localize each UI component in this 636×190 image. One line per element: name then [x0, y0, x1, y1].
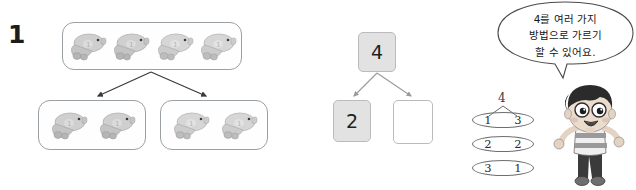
decomposition-right-value: 1 [514, 161, 521, 175]
svg-text:1: 1 [237, 120, 241, 128]
seal-group-part-right: 1 1 [160, 100, 268, 150]
seal-row: 1 1 [161, 101, 267, 149]
decomposition-whole: 4 [498, 91, 506, 105]
seal-icon: 1 [197, 29, 237, 63]
decomposition-left-value: 3 [484, 161, 491, 175]
seal-icon: 1 [110, 29, 150, 63]
svg-text:1: 1 [129, 41, 133, 49]
decomposition-chart: 4 1 3 2 2 3 1 [472, 93, 538, 185]
speech-bubble-text: 4를 여러 가지 방법으로 가르기 할 수 있어요. [495, 0, 636, 72]
seal-icon: 1 [170, 108, 210, 142]
svg-text:1: 1 [86, 41, 90, 49]
decomposition-left-value: 1 [484, 113, 491, 127]
number-bond-whole: 4 [358, 32, 396, 72]
worksheet-page: 1 [0, 0, 636, 190]
speech-bubble: 4를 여러 가지 방법으로 가르기 할 수 있어요. [495, 0, 636, 80]
speech-line: 할 수 있어요. [535, 46, 595, 59]
decomposition-right-value: 3 [514, 113, 521, 127]
seal-row: 1 1 [39, 101, 145, 149]
seal-row: 1 1 1 [63, 23, 241, 69]
seal-icon: 1 [218, 108, 258, 142]
svg-text:1: 1 [216, 41, 220, 49]
decomposition-row: 1 3 [472, 112, 534, 128]
seal-icon: 1 [48, 108, 88, 142]
seal-group-whole: 1 1 1 [62, 22, 242, 70]
seal-icon: 1 [154, 29, 194, 63]
svg-text:1: 1 [173, 41, 177, 49]
seal-icon: 1 [67, 29, 107, 63]
decomposition-row: 2 2 [472, 136, 534, 152]
decomposition-left-value: 2 [484, 137, 491, 151]
seal-icon: 1 [96, 108, 136, 142]
cartoon-boy-character [548, 78, 632, 190]
svg-text:1: 1 [189, 120, 193, 128]
decomposition-row: 3 1 [472, 160, 534, 176]
number-bond-part-left: 2 [333, 100, 371, 142]
speech-line: 방법으로 가르기 [529, 29, 602, 42]
number-bond-part-right-blank[interactable] [393, 100, 433, 144]
decomposition-right-value: 2 [514, 137, 521, 151]
seal-group-part-left: 1 1 [38, 100, 146, 150]
speech-line: 4를 여러 가지 [534, 13, 597, 26]
svg-text:1: 1 [115, 120, 119, 128]
problem-number: 1 [8, 20, 24, 49]
svg-text:1: 1 [67, 120, 71, 128]
